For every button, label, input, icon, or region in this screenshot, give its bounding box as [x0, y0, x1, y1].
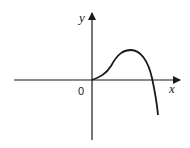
function-graph: y x 0 — [0, 0, 190, 148]
function-curve — [92, 50, 158, 115]
x-axis-label: x — [168, 81, 175, 96]
origin-label: 0 — [78, 85, 84, 97]
y-axis-label: y — [77, 10, 85, 25]
